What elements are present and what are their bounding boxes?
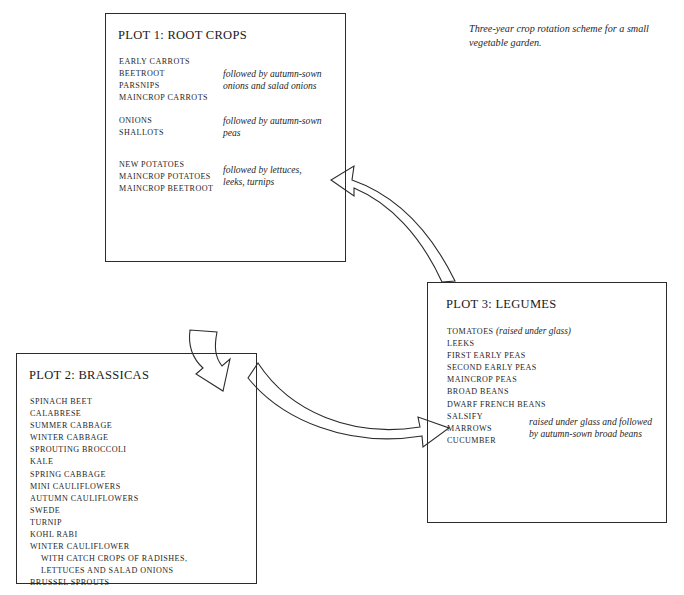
- crop-item: MAINCROP CARROTS: [119, 92, 208, 104]
- crop-item: NEW POTATOES: [119, 159, 213, 171]
- crop-name: TOMATOES: [447, 327, 493, 336]
- crop-item: AUTUMN CAULIFLOWERS: [30, 493, 187, 505]
- arrow-plot3-to-plot1: [331, 166, 455, 282]
- crop-item: CALABRESE: [30, 408, 187, 420]
- crop-item: MAINCROP PEAS: [447, 374, 571, 386]
- arrow-plot2-to-plot3: [248, 363, 449, 447]
- crop-item: ONIONS: [119, 115, 164, 127]
- plot-1-group-2-annotation: followed by autumn-sownpeas: [223, 115, 322, 139]
- crop-item: WINTER CAULIFLOWER: [30, 541, 187, 553]
- crop-item: MINI CAULIFLOWERS: [30, 481, 187, 493]
- plot-2-title: PLOT 2: BRASSICAS: [29, 368, 149, 383]
- crop-item: SECOND EARLY PEAS: [447, 362, 571, 374]
- crop-item: LEEKS: [447, 338, 571, 350]
- crop-item: KALE: [30, 456, 187, 468]
- plot-3-annotation: raised under glass and followedby autumn…: [529, 416, 652, 440]
- crop-item: WINTER CABBAGE: [30, 432, 187, 444]
- crop-item: MAINCROP POTATOES: [119, 171, 213, 183]
- crop-item: BROAD BEANS: [447, 386, 571, 398]
- crop-item: WITH CATCH CROPS OF RADISHES,: [30, 553, 187, 565]
- crop-item: BEETROOT: [119, 68, 208, 80]
- plot-1-group-3-crops: NEW POTATOES MAINCROP POTATOES MAINCROP …: [119, 159, 213, 195]
- crop-item: TURNIP: [30, 517, 187, 529]
- plot-1-group-2-crops: ONIONS SHALLOTS: [119, 115, 164, 139]
- plot-1-content: PLOT 1: ROOT CROPS EARLY CARROTS BEETROO…: [106, 14, 345, 261]
- plot-2-box: PLOT 2: BRASSICAS SPINACH BEETCALABRESES…: [16, 353, 257, 584]
- crop-item: SPINACH BEET: [30, 396, 187, 408]
- plot-3-title: PLOT 3: LEGUMES: [446, 297, 557, 312]
- crop-item: MAINCROP BEETROOT: [119, 183, 213, 195]
- plot-2-content: PLOT 2: BRASSICAS SPINACH BEETCALABRESES…: [17, 354, 256, 583]
- crop-item: FIRST EARLY PEAS: [447, 350, 571, 362]
- crop-item: PARSNIPS: [119, 80, 208, 92]
- plot-1-group-1-crops: EARLY CARROTS BEETROOT PARSNIPS MAINCROP…: [119, 56, 208, 104]
- plot-1-group-1-annotation: followed by autumn-sownonions and salad …: [223, 68, 322, 92]
- crop-item: SPRING CABBAGE: [30, 469, 187, 481]
- crop-item: SPROUTING BROCCOLI: [30, 444, 187, 456]
- crop-item: EARLY CARROTS: [119, 56, 208, 68]
- crop-item: LETTUCES AND SALAD ONIONS: [30, 565, 187, 577]
- crop-item: SHALLOTS: [119, 127, 164, 139]
- plot-1-group-3-annotation: followed by lettuces,leeks, turnips: [223, 164, 302, 188]
- plot-3-content: PLOT 3: LEGUMES TOMATOES (raised under g…: [428, 283, 666, 522]
- crop-item: KOHL RABI: [30, 529, 187, 541]
- plot-1-title: PLOT 1: ROOT CROPS: [118, 28, 247, 43]
- plot-3-box: PLOT 3: LEGUMES TOMATOES (raised under g…: [427, 282, 667, 523]
- crop-note: (raised under glass): [496, 326, 571, 336]
- diagram-caption: Three-year crop rotation scheme for a sm…: [469, 22, 679, 50]
- crop-item-tomatoes: TOMATOES (raised under glass): [447, 325, 571, 338]
- crop-item: BRUSSEL SPROUTS: [30, 577, 187, 589]
- plot-2-crop-list: SPINACH BEETCALABRESESUMMER CABBAGEWINTE…: [30, 396, 187, 590]
- crop-item: SUMMER CABBAGE: [30, 420, 187, 432]
- plot-1-box: PLOT 1: ROOT CROPS EARLY CARROTS BEETROO…: [105, 13, 346, 262]
- crop-item: SWEDE: [30, 505, 187, 517]
- crop-item: DWARF FRENCH BEANS: [447, 399, 571, 411]
